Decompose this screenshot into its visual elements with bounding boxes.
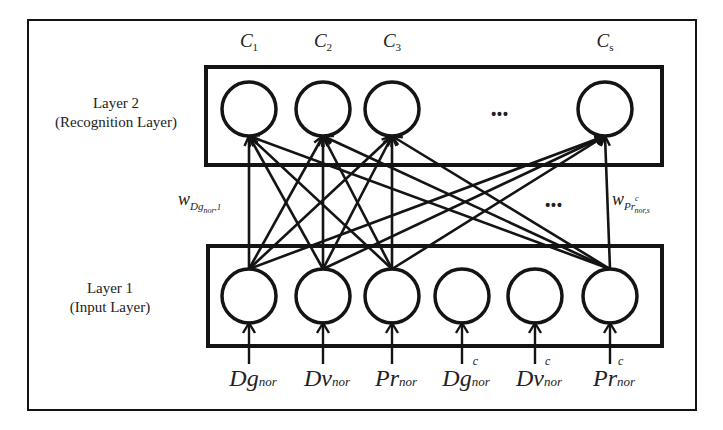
input-neuron [222,269,276,323]
weight-label-left: wDgnor,1 [178,189,221,210]
output-node-label: C1 [240,30,258,53]
weight-sub-index: ,1 [215,202,222,212]
network-diagram: Layer 2 (Recognition Layer) Layer 1 (Inp… [0,0,723,430]
input-neuron [365,269,419,323]
input-neuron [508,269,562,323]
input-node-label: Prnor [375,365,421,392]
input-nodes [222,269,637,323]
weight-sub-base: Pr [624,200,635,212]
weight-label-right: wPrcnor,s [612,189,650,210]
input-neuron [435,269,489,323]
layer2-ellipsis: ••• [491,106,509,122]
output-node-label: C3 [383,30,401,53]
connection-edge [605,136,610,269]
input-node-label: Dvnor [304,365,354,392]
weight-symbol: w [612,189,624,209]
weight-sub-base: Dg [190,200,203,212]
layer2-subtitle: (Recognition Layer) [36,113,196,132]
input-neuron [296,269,350,323]
output-neuron [296,82,350,136]
weight-sub-nor: nor [635,206,645,215]
input-node-label: Prcnor [593,365,639,392]
input-neuron [583,269,637,323]
weight-sub-index: ,s [645,206,650,215]
outer-frame [28,20,696,410]
layer1-title: Layer 1 [30,279,190,298]
layer1-label: Layer 1 (Input Layer) [30,279,190,317]
input-node-label: Dgnor [229,365,280,392]
output-neuron [578,82,632,136]
output-node-label: Cs [597,30,614,53]
weight-symbol: w [178,189,190,209]
weight-sub-sup: c [635,194,639,203]
layer1-subtitle: (Input Layer) [30,298,190,317]
output-nodes [222,82,632,136]
output-neuron [222,82,276,136]
layer2-label: Layer 2 (Recognition Layer) [36,94,196,132]
weight-sub-nor: nor [203,206,214,215]
input-node-label: Dvcnor [516,365,566,392]
input-node-label: Dgcnor [442,365,493,392]
connections-ellipsis: ••• [545,197,563,213]
layer2-title: Layer 2 [36,94,196,113]
output-node-label: C2 [314,30,332,53]
input-arrows [243,323,616,364]
output-neuron [365,82,419,136]
